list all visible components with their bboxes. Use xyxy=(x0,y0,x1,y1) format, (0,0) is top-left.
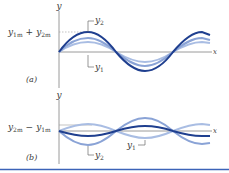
y-axis-label-b: y xyxy=(55,90,62,100)
curve-label-y1-b: y1 xyxy=(126,140,136,151)
panel-label-b: (b) xyxy=(26,153,37,162)
leader-y1-b xyxy=(138,140,145,145)
x-axis-label-b: x xyxy=(213,127,217,135)
curve-label-y1-a: y1 xyxy=(94,62,104,73)
panel-label-a: (a) xyxy=(26,75,37,84)
curve-label-y2-a: y2 xyxy=(94,15,104,26)
leader-y2-a xyxy=(88,21,94,32)
curve-label-y2-b: y2 xyxy=(94,150,104,161)
leader-y1-a xyxy=(88,55,94,67)
interference-diagram: y x y1m+y2m y2 y1 (a) y x y2m−y1m y2 y1 … xyxy=(0,0,229,173)
amplitude-label-a: y1m+y2m xyxy=(7,27,51,38)
panel-b: y x y2m−y1m y2 y1 (b) xyxy=(7,90,217,164)
y-axis-label-a: y xyxy=(55,1,62,11)
amplitude-label-b: y2m−y1m xyxy=(7,122,51,133)
x-axis-label-a: x xyxy=(213,48,217,56)
panel-a: y x y1m+y2m y2 y1 (a) xyxy=(7,1,217,88)
leader-y2-b xyxy=(88,146,94,155)
